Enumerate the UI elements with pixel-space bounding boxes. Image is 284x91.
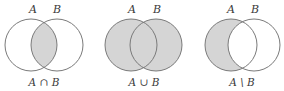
panel-difference: A B A \ B <box>205 3 280 88</box>
panel-union: A B A ∪ B <box>105 3 182 88</box>
set-a-label: A <box>28 3 37 16</box>
operation-label: A \ B <box>228 76 255 88</box>
set-a-label: A <box>127 3 136 16</box>
set-b-label: B <box>52 3 61 16</box>
set-a-label: A <box>226 3 235 16</box>
venn-diagram-figure: A B A ∩ B A B A ∪ B A B A \ B <box>0 0 284 91</box>
set-b-label: B <box>250 3 259 16</box>
operation-label: A ∪ B <box>128 76 160 88</box>
operation-label: A ∩ B <box>28 76 60 88</box>
panel-intersection: A B A ∩ B <box>5 3 83 88</box>
set-b-label: B <box>152 3 161 16</box>
